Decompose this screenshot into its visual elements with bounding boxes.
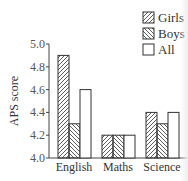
legend: GirlsBoysAll — [143, 10, 185, 57]
x-tick-label: Science — [143, 160, 180, 174]
x-tick-label: Maths — [103, 160, 133, 174]
y-axis-label: APS score — [7, 76, 21, 126]
bar-english-all — [80, 90, 91, 158]
bar-maths-boys — [113, 135, 124, 158]
bar-science-boys — [157, 124, 168, 158]
legend-label: All — [158, 42, 175, 57]
bar-maths-girls — [102, 135, 113, 158]
legend-swatch-boys — [143, 28, 154, 39]
bar-chart: 4.04.24.44.64.85.0 EnglishMathsScience G… — [0, 0, 188, 181]
bar-science-girls — [146, 112, 157, 158]
y-tick-label: 5.0 — [30, 37, 45, 51]
edge-fade — [180, 0, 188, 181]
bar-english-girls — [58, 55, 69, 158]
bars — [58, 55, 179, 158]
legend-swatch-girls — [143, 12, 154, 23]
y-tick-label: 4.6 — [30, 83, 45, 97]
y-tick-label: 4.4 — [30, 105, 45, 119]
bar-maths-all — [124, 135, 135, 158]
y-tick-label: 4.8 — [30, 60, 45, 74]
bar-science-all — [168, 112, 179, 158]
x-axis-labels: EnglishMathsScience — [56, 160, 181, 174]
y-tick-label: 4.0 — [30, 151, 45, 165]
x-tick-label: English — [56, 160, 93, 174]
legend-swatch-all — [143, 44, 154, 55]
y-tick-label: 4.2 — [30, 128, 45, 142]
bar-english-boys — [69, 124, 80, 158]
